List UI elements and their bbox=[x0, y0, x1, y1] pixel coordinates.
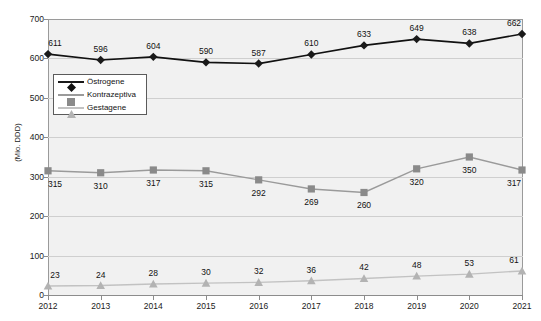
series-layer bbox=[0, 0, 541, 321]
data-label: 30 bbox=[201, 267, 210, 277]
data-point bbox=[44, 50, 52, 58]
legend-key-square-icon bbox=[58, 89, 84, 100]
data-label: 638 bbox=[462, 27, 476, 37]
data-label: 42 bbox=[359, 262, 368, 272]
legend-item-kontrazeptiva[interactable]: Kontrazeptiva bbox=[54, 88, 146, 101]
legend-label: Östrogene bbox=[87, 77, 124, 86]
data-label: 260 bbox=[357, 200, 371, 210]
data-point bbox=[360, 41, 368, 49]
series-triangle bbox=[44, 267, 527, 290]
legend-key-diamond-icon bbox=[58, 76, 84, 87]
data-label: 317 bbox=[146, 178, 160, 188]
data-point bbox=[255, 176, 262, 183]
data-label: 61 bbox=[509, 255, 518, 265]
data-label: 292 bbox=[252, 188, 266, 198]
legend-label: Gestagene bbox=[87, 103, 126, 112]
data-point bbox=[308, 185, 315, 192]
data-label: 587 bbox=[252, 48, 266, 58]
data-label: 23 bbox=[50, 270, 59, 280]
data-point bbox=[412, 35, 420, 43]
data-point bbox=[518, 166, 525, 173]
data-point bbox=[360, 189, 367, 196]
data-label: 32 bbox=[254, 266, 263, 276]
data-label: 28 bbox=[149, 268, 158, 278]
data-label: 611 bbox=[48, 38, 62, 48]
data-label: 350 bbox=[462, 165, 476, 175]
data-point bbox=[465, 39, 473, 47]
legend: Östrogene Kontrazeptiva Gestagene bbox=[53, 74, 147, 115]
data-point bbox=[518, 30, 526, 38]
data-label: 36 bbox=[307, 265, 316, 275]
data-label: 269 bbox=[304, 197, 318, 207]
data-label: 310 bbox=[94, 181, 108, 191]
data-point bbox=[202, 167, 209, 174]
legend-item-ostrogene[interactable]: Östrogene bbox=[54, 75, 146, 88]
data-label: 315 bbox=[199, 179, 213, 189]
legend-key-triangle-icon bbox=[58, 102, 84, 113]
data-label: 317 bbox=[507, 178, 521, 188]
data-point bbox=[96, 56, 104, 64]
series-diamond bbox=[44, 30, 526, 68]
data-point bbox=[149, 53, 157, 61]
data-point bbox=[254, 59, 262, 67]
data-label: 48 bbox=[412, 260, 421, 270]
data-point bbox=[413, 165, 420, 172]
data-point bbox=[97, 169, 104, 176]
series-square bbox=[44, 153, 525, 196]
line-chart: 0100200300400500600700 20122013201420152… bbox=[0, 0, 541, 321]
data-point bbox=[44, 167, 51, 174]
data-point bbox=[202, 58, 210, 66]
data-point bbox=[466, 153, 473, 160]
data-label: 320 bbox=[410, 177, 424, 187]
legend-item-gestagene[interactable]: Gestagene bbox=[54, 101, 146, 114]
data-label: 649 bbox=[410, 23, 424, 33]
data-label: 610 bbox=[304, 38, 318, 48]
data-label: 662 bbox=[507, 18, 521, 28]
data-label: 53 bbox=[465, 258, 474, 268]
data-label: 604 bbox=[146, 41, 160, 51]
data-point bbox=[150, 166, 157, 173]
legend-label: Kontrazeptiva bbox=[87, 90, 136, 99]
data-label: 596 bbox=[94, 44, 108, 54]
data-label: 590 bbox=[199, 46, 213, 56]
data-label: 633 bbox=[357, 29, 371, 39]
data-point bbox=[307, 50, 315, 58]
data-label: 315 bbox=[48, 179, 62, 189]
data-label: 24 bbox=[96, 270, 105, 280]
